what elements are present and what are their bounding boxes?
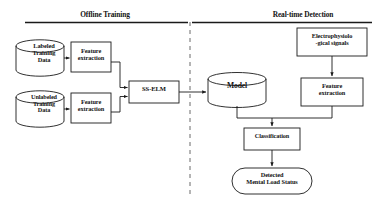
node-feature-extraction-realtime (301, 78, 363, 106)
node-feature-extraction-unlabeled (71, 93, 111, 123)
node-ss-elm (129, 81, 179, 103)
edge-feature-realtime-to-bus (272, 106, 332, 118)
edge-feature-labeled-to-sselm (111, 62, 128, 88)
node-model (208, 73, 266, 108)
node-detected-mental-load-status (232, 168, 312, 194)
flowchart-canvas (0, 0, 377, 202)
node-unlabeled-data (16, 91, 64, 127)
node-labeled-data (16, 40, 64, 76)
node-feature-extraction-labeled (71, 42, 111, 72)
node-classification (244, 128, 300, 150)
node-electrophysiological-signals (297, 28, 367, 56)
edge-feature-unlabeled-to-sselm (111, 97, 128, 113)
